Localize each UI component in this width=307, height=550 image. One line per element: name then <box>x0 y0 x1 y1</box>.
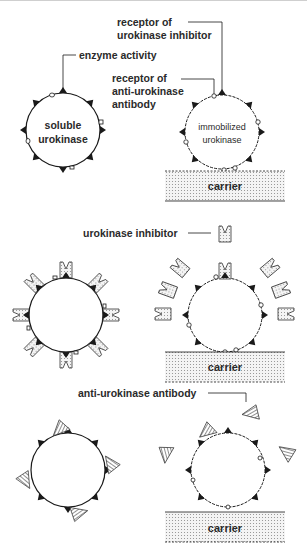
carrier-label: carrier <box>208 522 243 534</box>
receptor-antibody-label-line3: antibody <box>112 98 156 110</box>
carrier-block-3: carrier <box>165 512 285 542</box>
panel-2: urokinase inhibitor <box>13 226 294 382</box>
immobilized-label-line2: urokinase <box>202 135 241 145</box>
inhibitor-label: urokinase inhibitor <box>83 227 178 239</box>
carrier-block-2: carrier <box>165 352 285 382</box>
carrier-label: carrier <box>208 361 243 373</box>
antibody-label: anti-urokinase antibody <box>78 387 197 399</box>
enzyme-activity-label: enzyme activity <box>79 49 157 61</box>
soluble-label-line1: soluble <box>45 119 82 131</box>
antibody-callout: anti-urokinase antibody <box>78 387 263 419</box>
panel-1: soluble urokinase enzyme activity recept… <box>20 16 285 201</box>
inhibitor-icon <box>219 226 231 242</box>
soluble-label-line2: urokinase <box>38 133 88 145</box>
receptor-inhibitor-label-line2: urokinase inhibitor <box>117 29 212 41</box>
soluble-urokinase-inhibited <box>13 262 119 368</box>
immobilized-urokinase-antibody <box>154 420 300 509</box>
receptor-inhibitor-label-line1: receptor of <box>117 16 172 28</box>
soluble-urokinase-molecule: soluble urokinase <box>20 87 106 173</box>
antibody-icon <box>242 402 263 419</box>
immobilized-urokinase-inhibited <box>155 258 294 354</box>
carrier-label: carrier <box>208 180 243 192</box>
inhibitor-callout: urokinase inhibitor <box>83 226 231 242</box>
soluble-urokinase-antibody-bound <box>15 417 121 523</box>
panel-3: anti-urokinase antibody <box>15 387 299 542</box>
immobilized-label-line1: immobilized <box>198 122 246 132</box>
immobilized-urokinase-molecule: immobilized urokinase <box>179 89 265 172</box>
carrier-block-1: carrier <box>165 171 285 201</box>
urokinase-diagram: soluble urokinase enzyme activity recept… <box>0 0 307 550</box>
receptor-antibody-label-line1: receptor of <box>112 72 167 84</box>
receptor-antibody-label-line2: anti-urokinase <box>112 85 184 97</box>
